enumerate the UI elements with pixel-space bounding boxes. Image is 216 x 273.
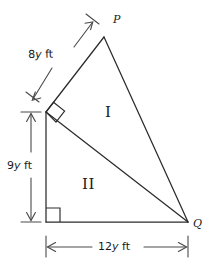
dimension-rs-value: 9 (7, 159, 14, 172)
dimension-label-pr: 8y ft (28, 49, 53, 60)
dimension-pr-arrow-upper (74, 23, 92, 47)
vertex-label-p: P (113, 14, 120, 25)
dimension-pr-unit: ft (45, 48, 53, 61)
dimension-label-rs: 9y ft (7, 160, 32, 171)
dimension-sq-unit: ft (122, 240, 130, 253)
segment-pr (46, 37, 104, 112)
vertex-label-q: Q (193, 218, 202, 229)
segment-rq-divider (46, 112, 188, 222)
dimension-pr-arrow-lower (33, 68, 52, 99)
dimension-label-sq: 12y ft (98, 241, 130, 252)
region-label-ii: II (82, 177, 95, 192)
dimension-rs-variable: y (14, 159, 21, 172)
region-label-i: I (105, 105, 111, 120)
dimension-sq-variable: y (112, 240, 119, 253)
dimension-pr-variable: y (35, 48, 42, 61)
segment-pq (104, 37, 188, 222)
right-angle-marker-s (46, 208, 60, 222)
dimension-sq-value: 12 (98, 240, 112, 253)
geometry-figure: P Q 8y ft 9y ft 12y ft I II (0, 0, 216, 273)
dimension-rs-unit: ft (24, 159, 32, 172)
figure-canvas (0, 0, 216, 273)
triangle-outline (46, 37, 188, 222)
